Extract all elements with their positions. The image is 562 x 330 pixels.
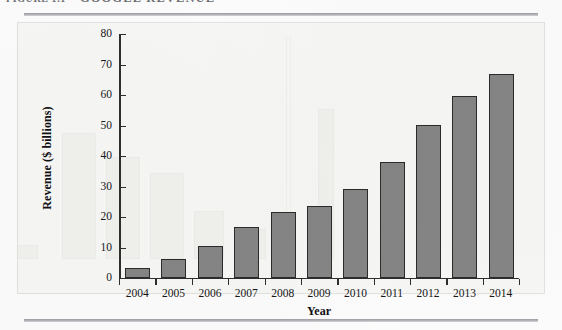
bar-2014 [489,74,514,278]
x-tick-9 [446,279,447,285]
figure-caption-row: FIGURE 1.1GOOGLE REVENUE [6,0,215,6]
y-tick-label-80: 80 [72,28,112,40]
x-tick-5 [301,279,302,285]
bar-series [119,34,519,278]
x-tick-3 [228,279,229,285]
x-tick-label-2007: 2007 [228,286,264,300]
x-tick-label-2009: 2009 [301,286,337,300]
x-tick-label-2008: 2008 [265,286,301,300]
bar-2012 [416,125,441,278]
y-tick-label-70: 70 [72,59,112,71]
figure-title: GOOGLE REVENUE [80,0,215,5]
y-tick-label-20: 20 [72,211,112,223]
bar-2011 [380,162,405,278]
y-axis-title: Revenue ($ billions) [40,73,55,243]
x-axis-ticks [119,279,519,286]
figure-page: FIGURE 1.1GOOGLE REVENUE Revenue ($ bill… [0,0,562,330]
figure-caption-clipped: FIGURE 1.1GOOGLE REVENUE [0,0,562,9]
rule-bottom [24,319,538,322]
x-tick-6 [337,279,338,285]
bar-2007 [234,227,259,278]
rule-top [24,13,538,16]
x-tick-10 [483,279,484,285]
y-tick-label-10: 10 [72,242,112,254]
y-tick-label-40: 40 [72,150,112,162]
chart-panel: Revenue ($ billions) 80 70 60 50 40 30 2… [17,22,545,294]
plot-area: Revenue ($ billions) 80 70 60 50 40 30 2… [18,23,544,293]
bar-2009 [307,206,332,278]
y-tick-label-0: 0 [72,272,112,284]
x-tick-label-2014: 2014 [483,286,519,300]
x-axis-title: Year [119,304,519,319]
x-tick-4 [265,279,266,285]
x-axis-labels: 2004 2005 2006 2007 2008 2009 2010 2011 … [119,286,519,302]
x-tick-7 [374,279,375,285]
x-tick-11 [519,279,520,285]
x-tick-label-2006: 2006 [192,286,228,300]
x-tick-label-2013: 2013 [446,286,482,300]
y-tick-label-50: 50 [72,120,112,132]
x-tick-label-2004: 2004 [119,286,155,300]
x-tick-label-2011: 2011 [374,286,410,300]
figure-number: FIGURE 1.1 [6,0,66,4]
bar-2004 [125,268,150,278]
bar-2010 [343,189,368,278]
x-tick-label-2005: 2005 [155,286,191,300]
y-tick-label-60: 60 [72,89,112,101]
bar-2005 [161,259,186,278]
bar-2013 [452,96,477,278]
bar-2008 [271,212,296,279]
bar-2006 [198,246,223,278]
x-tick-1 [155,279,156,285]
x-tick-label-2010: 2010 [337,286,373,300]
x-tick-0 [119,279,120,285]
y-tick-label-30: 30 [72,181,112,193]
x-tick-label-2012: 2012 [410,286,446,300]
x-tick-8 [410,279,411,285]
x-tick-2 [192,279,193,285]
